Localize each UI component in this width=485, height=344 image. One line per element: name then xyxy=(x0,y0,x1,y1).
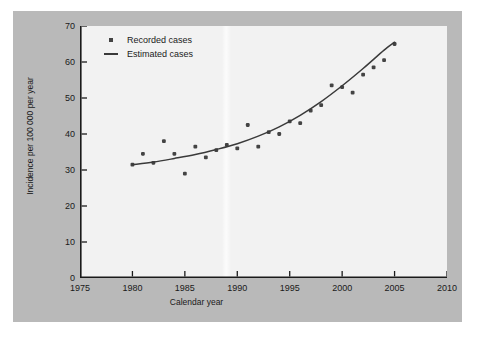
y-tick-label: 50 xyxy=(49,94,75,103)
x-tick-label: 2010 xyxy=(427,284,467,293)
square-dot-icon xyxy=(102,35,120,45)
x-tick-label: 1995 xyxy=(270,284,310,293)
y-tick-label: 30 xyxy=(49,166,75,175)
y-tick-label: 20 xyxy=(49,202,75,211)
y-axis-title: Incidence per 100 000 per year xyxy=(25,10,35,262)
y-tick-label: 40 xyxy=(49,130,75,139)
y-tick-label: 0 xyxy=(49,274,75,283)
y-tick-label: 70 xyxy=(49,22,75,31)
plot-area: Recorded cases Estimated cases xyxy=(80,26,447,278)
figure-panel: Recorded cases Estimated cases Incidence… xyxy=(13,11,462,322)
x-axis-title: Calendar year xyxy=(13,297,380,307)
x-tick-label: 1975 xyxy=(60,284,100,293)
x-tick-label: 1980 xyxy=(112,284,152,293)
legend-label-estimated: Estimated cases xyxy=(127,49,193,59)
x-tick-label: 1990 xyxy=(217,284,257,293)
line-segment-icon xyxy=(102,49,120,59)
y-tick-label: 60 xyxy=(49,58,75,67)
legend-item-recorded: Recorded cases xyxy=(102,33,193,47)
x-tick-label: 2005 xyxy=(375,284,415,293)
x-tick-label: 1985 xyxy=(165,284,205,293)
x-tick-label: 2000 xyxy=(322,284,362,293)
chart-legend: Recorded cases Estimated cases xyxy=(102,33,193,61)
legend-label-recorded: Recorded cases xyxy=(127,35,192,45)
y-tick-label: 10 xyxy=(49,238,75,247)
data-layer xyxy=(80,26,447,278)
legend-item-estimated: Estimated cases xyxy=(102,47,193,61)
